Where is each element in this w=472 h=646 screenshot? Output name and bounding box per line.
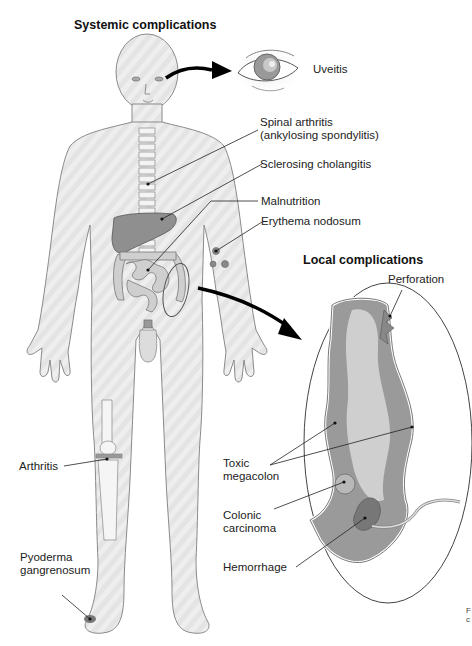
genital-region: [139, 330, 156, 362]
label-perforation: Perforation: [388, 273, 444, 286]
label-toxic-line2: megacolon: [223, 470, 279, 483]
label-erythema-nodosum: Erythema nodosum: [261, 215, 361, 228]
label-toxic-line1: Toxic: [223, 457, 279, 470]
label-uveitis: Uveitis: [313, 63, 348, 76]
label-sclerosing-cholangitis: Sclerosing cholangitis: [260, 158, 371, 171]
eye-illustration: [231, 44, 303, 96]
label-pyoderma-line2: gangrenosum: [20, 564, 90, 577]
label-pyoderma-gangrenosum: Pyoderma gangrenosum: [20, 551, 90, 577]
label-carcinoma-line1: Colonic: [223, 509, 276, 522]
label-pyoderma-line1: Pyoderma: [20, 551, 90, 564]
label-hemorrhage: Hemorrhage: [223, 561, 287, 574]
local-complications-title: Local complications: [303, 253, 423, 267]
eye-arrowhead: [212, 61, 232, 79]
label-arthritis: Arthritis: [19, 460, 58, 473]
label-carcinoma-line2: carcinoma: [223, 522, 276, 535]
colon-inset: [304, 283, 472, 603]
label-toxic-megacolon: Toxic megacolon: [223, 457, 279, 483]
illustration: [0, 0, 472, 646]
leader-pyoderma: [62, 595, 90, 619]
systemic-complications-title: Systemic complications: [74, 18, 216, 32]
label-spinal-arthritis-line2: (ankylosing spondylitis): [260, 129, 379, 142]
label-colonic-carcinoma: Colonic carcinoma: [223, 509, 276, 535]
label-spinal-arthritis-line1: Spinal arthritis: [260, 116, 379, 129]
edge-text-fragment: F c: [466, 606, 471, 624]
label-malnutrition: Malnutrition: [261, 195, 320, 208]
label-spinal-arthritis: Spinal arthritis (ankylosing spondylitis…: [260, 116, 379, 142]
